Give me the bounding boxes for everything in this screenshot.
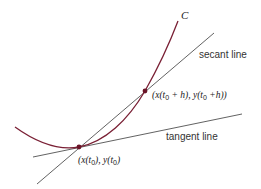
curve-label: C — [181, 9, 189, 21]
point-t0-label: (x(t0), y(t0) — [78, 155, 120, 166]
secant-line — [37, 33, 214, 184]
secant-line-label: secant line — [199, 49, 247, 60]
tangent-line-label: tangent line — [166, 131, 218, 142]
point-t0-plus-h — [143, 89, 148, 94]
point-t0 — [77, 145, 82, 150]
tangent-secant-diagram: C secant line tangent line (x(t0 + h), y… — [0, 0, 261, 189]
point-t0-plus-h-label: (x(t0 + h), y(t0 +h)) — [152, 90, 227, 101]
